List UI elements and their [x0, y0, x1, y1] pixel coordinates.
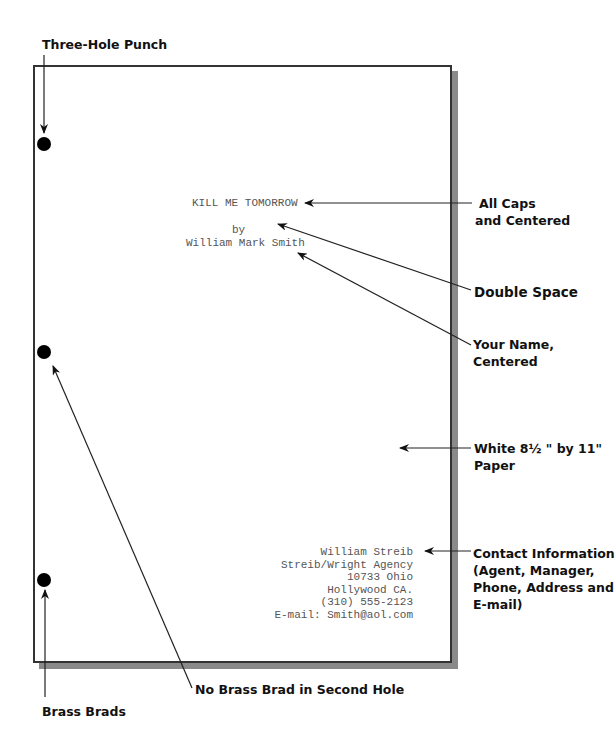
label-double-space: Double Space [474, 284, 578, 301]
punch-hole-top [37, 137, 51, 151]
punch-hole-bottom [37, 573, 51, 587]
label-contact-information: Contact Information (Agent, Manager, Pho… [473, 545, 615, 613]
contact-line: William Streib [274, 546, 413, 559]
script-title: KILL ME TOMORROW [192, 197, 298, 210]
contact-line: (310) 555-2123 [274, 596, 413, 609]
contact-line: E-mail: Smith@aol.com [274, 609, 413, 622]
label-brass-brads: Brass Brads [42, 703, 126, 720]
label-no-brass-brad: No Brass Brad in Second Hole [195, 681, 404, 698]
label-three-hole-punch: Three-Hole Punch [42, 36, 167, 53]
label-line: Centered [473, 353, 554, 370]
contact-line: 10733 Ohio [274, 571, 413, 584]
label-your-name: Your Name, Centered [473, 336, 554, 370]
label-paper: White 8½ " by 11" Paper [474, 440, 602, 474]
label-line: All Caps [475, 195, 570, 212]
contact-line: Streib/Wright Agency [274, 559, 413, 572]
contact-line: Hollywood CA. [274, 584, 413, 597]
label-line: and Centered [475, 212, 570, 229]
label-all-caps: All Caps and Centered [475, 195, 570, 229]
label-line: E-mail) [473, 596, 615, 613]
label-line: Paper [474, 457, 602, 474]
label-line: Your Name, [473, 336, 554, 353]
by-line: by [232, 224, 245, 237]
label-line: Phone, Address and [473, 579, 615, 596]
label-line: Contact Information [473, 545, 615, 562]
contact-block: William Streib Streib/Wright Agency 1073… [274, 546, 413, 621]
author-name: William Mark Smith [186, 237, 305, 250]
label-line: White 8½ " by 11" [474, 440, 602, 457]
punch-hole-middle [37, 345, 51, 359]
label-line: (Agent, Manager, [473, 562, 615, 579]
